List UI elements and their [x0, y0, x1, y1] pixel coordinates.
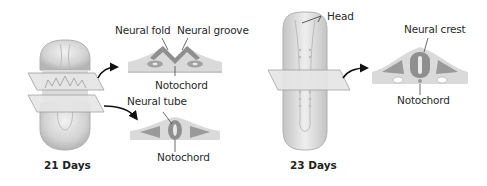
caption-23-days: 23 Days [290, 160, 337, 171]
label-neural-groove: Neural groove [177, 25, 249, 36]
label-neural-tube: Neural tube [127, 96, 187, 107]
arrow-to-lower-section [104, 106, 136, 118]
arrow-to-23-day-section [343, 68, 366, 78]
arrow-to-upper-section [98, 67, 116, 78]
label-notochord-23-days: Notochord [397, 95, 450, 106]
cross-section-neural-tube [130, 112, 220, 152]
label-notochord-upper: Notochord [155, 80, 208, 91]
section-plane-upper [28, 73, 104, 90]
caption-21-days: 21 Days [44, 160, 91, 171]
cross-section-neural-groove [128, 38, 222, 76]
label-head: Head [327, 11, 354, 22]
label-neural-fold: Neural fold [115, 25, 170, 36]
label-notochord-lower: Notochord [157, 152, 210, 163]
label-neural-crest: Neural crest [404, 24, 465, 35]
cross-section-neural-crest [372, 38, 468, 95]
section-plane-23-days [268, 70, 350, 90]
section-plane-lower [28, 95, 104, 112]
